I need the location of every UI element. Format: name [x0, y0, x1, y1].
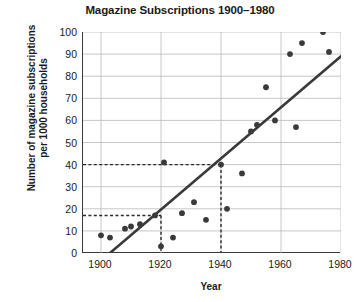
y-tick-70: 70 [41, 93, 77, 103]
plot-area [82, 32, 340, 253]
data-point-markers [98, 32, 332, 249]
y-tick-0: 0 [41, 248, 77, 258]
x-tick-1960: 1960 [257, 259, 303, 270]
x-tick-1920: 1920 [137, 259, 183, 270]
scatter-plot-svg [83, 32, 341, 253]
trend-line [110, 56, 341, 253]
y-tick-20: 20 [41, 204, 77, 214]
y-tick-100: 100 [41, 27, 77, 37]
chart-title: Magazine Subscriptions 1900–1980 [0, 4, 360, 16]
y-tick-60: 60 [41, 115, 77, 125]
y-axis-label: Number of magazine subscriptions per 100… [26, 8, 50, 208]
x-axis-label: Year [82, 281, 340, 292]
y-tick-50: 50 [41, 138, 77, 148]
chart-container: Magazine Subscriptions 1900–1980 Number … [0, 0, 360, 302]
y-tick-30: 30 [41, 182, 77, 192]
x-tick-1940: 1940 [197, 259, 243, 270]
x-tick-1900: 1900 [77, 259, 123, 270]
grid-lines [83, 32, 341, 253]
y-tick-90: 90 [41, 49, 77, 59]
y-tick-80: 80 [41, 71, 77, 81]
y-axis-label-line1: Number of magazine subscriptions [26, 8, 38, 208]
y-tick-40: 40 [41, 160, 77, 170]
y-axis-label-line2: per 1000 households [38, 8, 50, 208]
y-tick-10: 10 [41, 226, 77, 236]
x-tick-1980: 1980 [317, 259, 360, 270]
